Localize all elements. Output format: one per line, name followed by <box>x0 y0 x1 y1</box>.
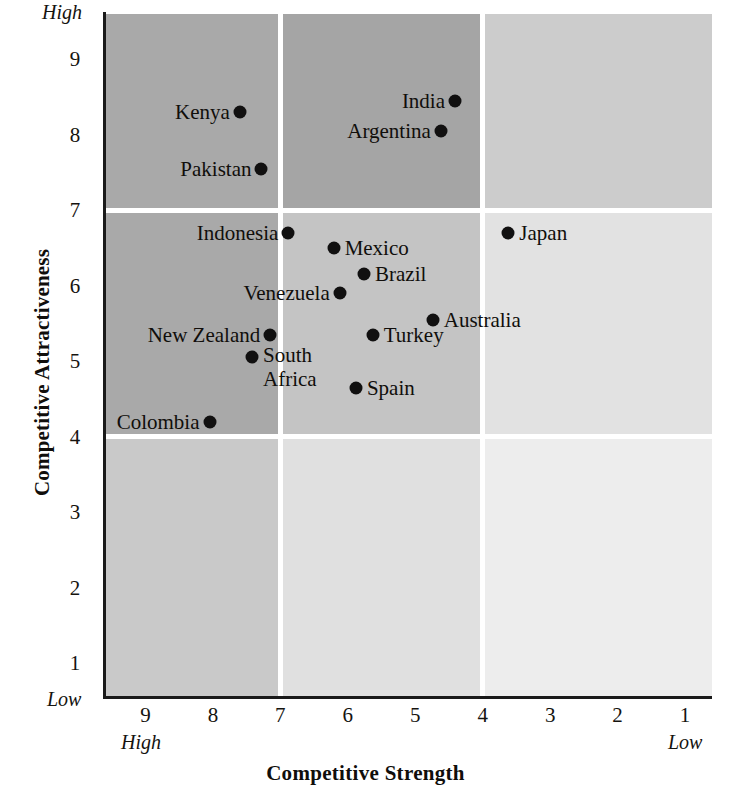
y-axis-tick-2: 2 <box>60 577 90 598</box>
data-point-new-zealand <box>264 328 277 341</box>
quadrant-cell-r1-c2 <box>280 14 482 210</box>
y-axis-title: Competitive Attractiveness <box>30 53 55 693</box>
quadrant-cell-r3-c3 <box>483 437 712 697</box>
chart-root: 987654321 High Low High Low Competitive … <box>0 0 731 807</box>
x-axis-tick-3: 3 <box>530 705 570 726</box>
data-point-venezuela <box>333 287 346 300</box>
quadrant-cell-r1-c3 <box>483 14 712 210</box>
data-label-turkey: Turkey <box>384 324 444 346</box>
y-axis-high-label: High <box>42 1 82 24</box>
data-label-japan: Japan <box>519 222 567 244</box>
y-axis-tick-9: 9 <box>60 49 90 70</box>
quadrant-divider-horizontal-1 <box>105 208 712 213</box>
data-point-argentina <box>434 124 447 137</box>
data-label-new-zealand: New Zealand <box>148 324 261 346</box>
x-axis-tick-6: 6 <box>328 705 368 726</box>
x-axis-tick-9: 9 <box>125 705 165 726</box>
data-label-mexico: Mexico <box>345 237 409 259</box>
data-point-pakistan <box>255 162 268 175</box>
quadrant-cell-r3-c1 <box>105 437 280 697</box>
data-point-turkey <box>366 328 379 341</box>
data-point-colombia <box>203 415 216 428</box>
data-label-indonesia: Indonesia <box>197 222 279 244</box>
data-label-spain: Spain <box>367 377 415 399</box>
data-label-india: India <box>402 90 445 112</box>
data-label-colombia: Colombia <box>117 411 200 433</box>
y-axis-tick-8: 8 <box>60 124 90 145</box>
x-axis-line <box>103 696 712 699</box>
x-axis-tick-1: 1 <box>665 705 705 726</box>
x-axis-tick-7: 7 <box>260 705 300 726</box>
y-axis-tick-1: 1 <box>60 653 90 674</box>
quadrant-cell-r3-c2 <box>280 437 482 697</box>
data-point-indonesia <box>282 226 295 239</box>
y-axis-tick-5: 5 <box>60 351 90 372</box>
data-point-japan <box>502 226 515 239</box>
data-point-south-africa <box>246 351 259 364</box>
data-label-kenya: Kenya <box>175 101 230 123</box>
data-label-venezuela: Venezuela <box>243 282 329 304</box>
x-axis-tick-8: 8 <box>193 705 233 726</box>
data-label-pakistan: Pakistan <box>180 158 251 180</box>
data-point-india <box>449 94 462 107</box>
data-label-argentina: Argentina <box>347 120 431 142</box>
data-label-brazil: Brazil <box>375 263 426 285</box>
data-point-mexico <box>327 241 340 254</box>
data-point-spain <box>349 381 362 394</box>
quadrant-divider-horizontal-2 <box>105 434 712 439</box>
data-label-australia: Australia <box>444 309 521 331</box>
data-point-brazil <box>357 268 370 281</box>
y-axis-tick-3: 3 <box>60 502 90 523</box>
y-axis-tick-4: 4 <box>60 426 90 447</box>
data-point-kenya <box>233 106 246 119</box>
y-axis-tick-6: 6 <box>60 275 90 296</box>
quadrant-divider-vertical-2 <box>480 14 485 697</box>
y-axis-title-host: Competitive Attractiveness <box>0 0 40 807</box>
x-axis-tick-4: 4 <box>463 705 503 726</box>
y-axis-tick-7: 7 <box>60 200 90 221</box>
x-axis-tick-2: 2 <box>598 705 638 726</box>
x-axis-tick-5: 5 <box>395 705 435 726</box>
y-axis-line <box>103 12 106 699</box>
x-axis-low-label: Low <box>668 731 702 754</box>
x-axis-high-label: High <box>121 731 161 754</box>
data-label-south-africa: South Africa <box>263 344 349 391</box>
x-axis-title: Competitive Strength <box>0 761 731 786</box>
